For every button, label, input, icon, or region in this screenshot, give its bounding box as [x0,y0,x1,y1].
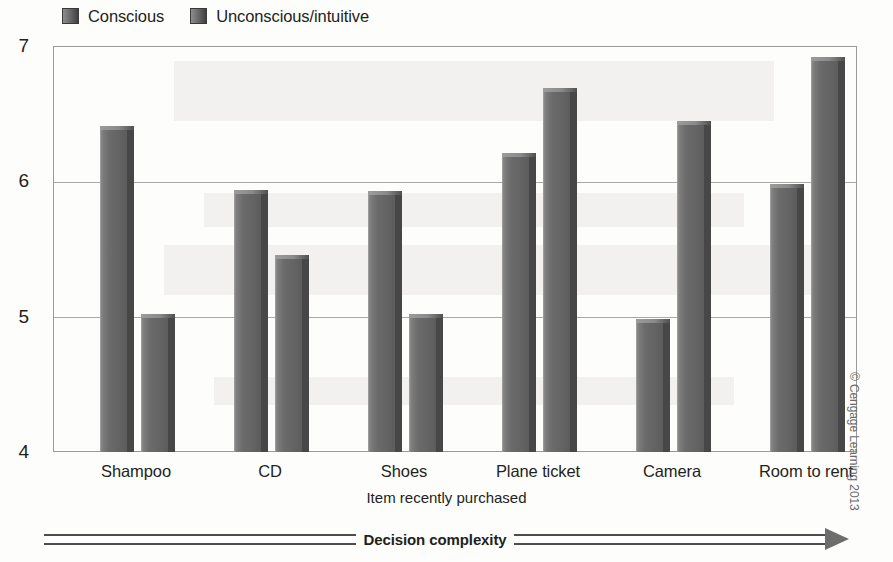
decision-complexity-annotation: Decision complexity [44,524,849,554]
x-tick-plane-ticket: Plane ticket [496,462,580,481]
legend-swatch-icon [190,8,207,24]
x-axis-title: Item recently purchased [0,489,893,506]
x-tick-room-to-rent: Room to rent [759,462,853,481]
bar-side [261,194,268,453]
bar-chart-figure: Conscious Unconscious/intuitive Mean rat… [0,0,893,562]
bar-side [168,318,175,452]
bar-shampoo-unconscious [141,318,175,452]
bar-face [234,194,262,453]
bar-plane-ticket-conscious [502,157,536,452]
chart-legend: Conscious Unconscious/intuitive [62,4,369,28]
bar-side [302,259,309,453]
arrow-head-icon [825,528,849,550]
y-tick-7: 7 [0,35,29,57]
bar-cd-conscious [234,194,268,453]
bar-face [677,125,705,453]
x-tick-shampoo: Shampoo [101,462,171,481]
bar-side [704,125,711,453]
y-tick-4: 4 [0,441,29,463]
bar-face [770,188,798,452]
bar-side [797,188,804,452]
bar-face [636,323,664,452]
legend-swatch-icon [62,8,79,24]
bar-plane-ticket-unconscious [543,92,577,452]
legend-label-conscious: Conscious [88,7,164,26]
decision-complexity-label: Decision complexity [363,531,506,548]
x-tick-camera: Camera [643,462,701,481]
bar-side [436,318,443,452]
bar-series-container [54,46,856,452]
legend-entry-unconscious: Unconscious/intuitive [190,7,369,26]
x-tick-cd: CD [258,462,282,481]
legend-label-unconscious: Unconscious/intuitive [216,7,369,26]
bar-camera-unconscious [677,125,711,453]
bar-face [100,130,128,452]
bar-face [368,195,396,452]
copyright-credit: © Cengage Learning 2013 [847,372,861,511]
bar-shampoo-conscious [100,130,134,452]
bar-side [395,195,402,452]
bar-face [409,318,437,452]
bar-shoes-conscious [368,195,402,452]
x-tick-shoes: Shoes [381,462,427,481]
bar-face [543,92,571,452]
bar-shoes-unconscious [409,318,443,452]
bar-side [663,323,670,452]
bar-side [127,130,134,452]
y-tick-6: 6 [0,170,29,192]
bar-face [811,61,839,452]
bar-face [502,157,530,452]
bar-side [529,157,536,452]
arrow-shaft-left [44,534,356,545]
bar-face [275,259,303,453]
bar-face [141,318,169,452]
y-tick-5: 5 [0,306,29,328]
bar-side [570,92,577,452]
arrow-shaft-right [514,534,826,545]
bar-cd-unconscious [275,259,309,453]
bar-side [838,61,845,452]
bar-room-to-rent-conscious [770,188,804,452]
bar-room-to-rent-unconscious [811,61,845,452]
legend-entry-conscious: Conscious [62,7,164,26]
bar-camera-conscious [636,323,670,452]
